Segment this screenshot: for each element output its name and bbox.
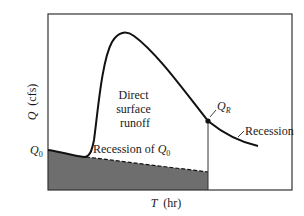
qr-label: QR bbox=[217, 99, 231, 115]
y-axis-label: Q (cfs) bbox=[25, 84, 39, 121]
direct-runoff-label: Direct surface runoff bbox=[116, 88, 154, 130]
recession-label: Recession bbox=[245, 124, 294, 138]
baseflow-area bbox=[48, 150, 208, 190]
hydrograph-curve bbox=[48, 33, 258, 157]
hydrograph-diagram: Q (cfs) T (hr) Q0 QR Direct surface runo… bbox=[0, 0, 304, 216]
q0-label: Q0 bbox=[30, 143, 43, 159]
x-axis-label: T (hr) bbox=[151, 196, 182, 210]
qr-leader bbox=[210, 110, 216, 117]
recession-of-q0-label: Recession of Q0 bbox=[93, 142, 170, 158]
recession-leader bbox=[238, 131, 244, 137]
qr-point bbox=[205, 118, 210, 123]
